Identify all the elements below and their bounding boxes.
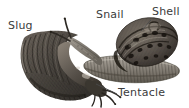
anatomy-figure: Slug Snail Shell Tentacle [0,0,189,108]
label-slug: Slug [8,20,33,32]
label-shell: Shell [152,6,180,18]
label-tentacle: Tentacle [118,87,165,99]
label-snail: Snail [96,9,124,21]
